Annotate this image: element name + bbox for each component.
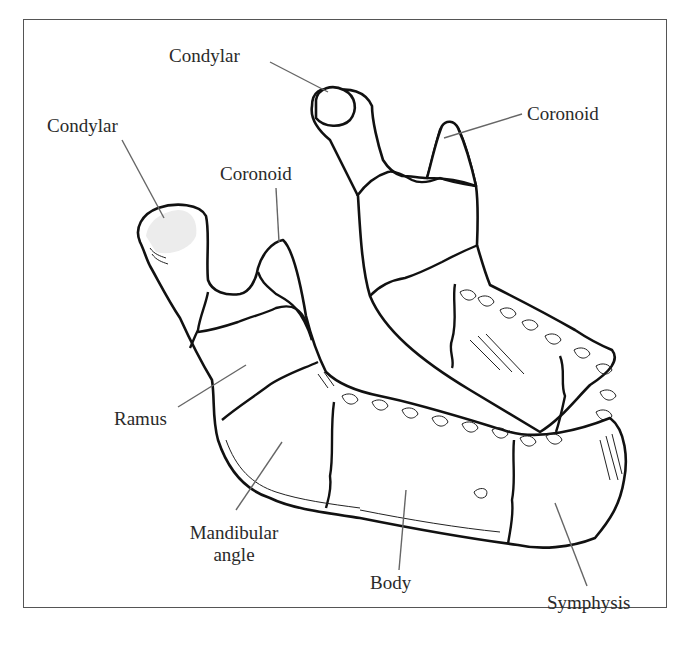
leader-condylar-front xyxy=(122,140,164,218)
leader-coronoid-front xyxy=(276,188,279,242)
back-condyle xyxy=(316,87,355,126)
label-condylar-back: Condylar xyxy=(169,45,240,67)
label-body: Body xyxy=(370,572,411,594)
label-mandibular-angle: Mandibular angle xyxy=(172,522,296,566)
leader-condylar-back xyxy=(270,62,328,92)
label-mandibular-angle-line1: Mandibular xyxy=(172,522,296,544)
label-coronoid-back: Coronoid xyxy=(527,103,599,125)
label-symphysis: Symphysis xyxy=(547,592,630,614)
label-mandibular-angle-line2: angle xyxy=(172,544,296,566)
back-mandible xyxy=(312,87,616,432)
label-condylar-front: Condylar xyxy=(47,115,118,137)
mandible-illustration xyxy=(0,0,691,657)
back-coronoid xyxy=(427,122,476,186)
label-coronoid-front: Coronoid xyxy=(220,163,292,185)
label-ramus: Ramus xyxy=(114,408,167,430)
